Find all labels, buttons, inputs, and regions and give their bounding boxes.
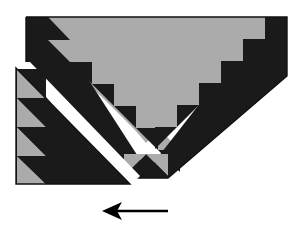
left-tooth-5-dark xyxy=(136,128,158,150)
geometric-figure xyxy=(0,0,302,239)
direction-arrow xyxy=(102,202,168,220)
figure-canvas xyxy=(0,0,302,239)
